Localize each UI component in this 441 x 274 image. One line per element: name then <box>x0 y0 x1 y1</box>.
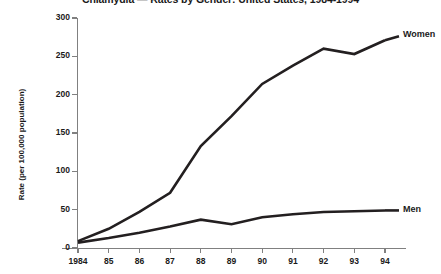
series-plot <box>0 0 441 274</box>
chart-figure: Chlamydia — Rates by Gender: United Stat… <box>0 0 441 274</box>
series-label-men: Men <box>403 204 421 214</box>
series-line-men <box>78 210 385 242</box>
series-label-women: Women <box>403 29 435 39</box>
leader-women <box>385 36 399 40</box>
